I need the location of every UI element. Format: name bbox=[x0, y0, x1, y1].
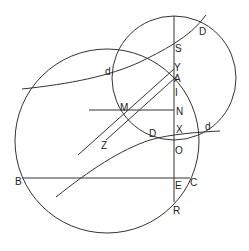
label-x: X bbox=[176, 124, 183, 135]
label-d-right: d bbox=[205, 121, 211, 132]
label-e: E bbox=[175, 180, 182, 191]
label-s: S bbox=[175, 43, 182, 54]
label-y: Y bbox=[174, 62, 181, 73]
label-d-left: d bbox=[105, 66, 111, 77]
label-d-top: D bbox=[199, 26, 206, 37]
label-m: M bbox=[120, 102, 128, 113]
label-o: O bbox=[175, 145, 183, 156]
label-a: A bbox=[174, 73, 181, 84]
label-c: C bbox=[190, 177, 197, 188]
label-b: B bbox=[15, 176, 22, 187]
label-d-mid: D bbox=[149, 128, 156, 139]
geometry-diagram: S D d Y A I M N D X d Z O B E C R bbox=[0, 0, 249, 251]
label-r: R bbox=[173, 205, 180, 216]
label-i: I bbox=[175, 87, 178, 98]
label-n: N bbox=[176, 106, 183, 117]
label-z: Z bbox=[101, 140, 107, 151]
